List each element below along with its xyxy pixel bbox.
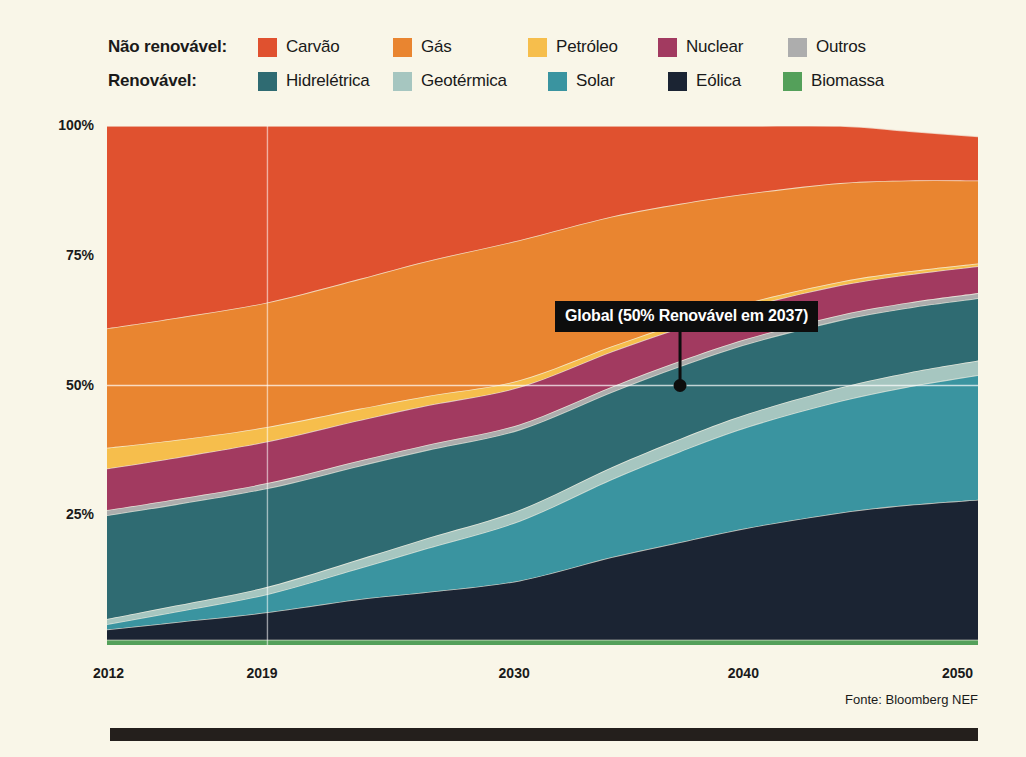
x-axis-tick-label: 2040 bbox=[728, 665, 759, 681]
annotation-callout: Global (50% Renovável em 2037) bbox=[555, 301, 818, 332]
y-axis-tick-label: 50% bbox=[24, 377, 94, 393]
x-axis-tick-label: 2030 bbox=[499, 665, 530, 681]
y-axis-tick-label: 100% bbox=[24, 117, 94, 133]
source-note: Fonte: Bloomberg NEF bbox=[845, 692, 978, 707]
x-axis-tick-label: 2019 bbox=[246, 665, 277, 681]
stacked-area-chart bbox=[0, 0, 1026, 690]
chart-plot-container: 25%50%75%100%20122019203020402050 Global… bbox=[0, 0, 1026, 694]
bottom-rule bbox=[110, 728, 978, 741]
x-axis-tick-label: 2012 bbox=[93, 665, 124, 681]
x-axis-tick-label: 2050 bbox=[942, 665, 973, 681]
y-axis-tick-label: 25% bbox=[24, 506, 94, 522]
annotation-point-marker bbox=[674, 379, 687, 392]
y-axis-tick-label: 75% bbox=[24, 247, 94, 263]
